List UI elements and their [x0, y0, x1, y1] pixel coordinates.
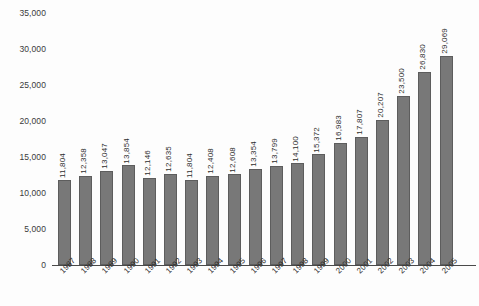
bar-value-label: 20,207	[376, 92, 389, 118]
bar-value-label: 13,854	[122, 138, 135, 164]
bar	[440, 56, 453, 265]
bar	[312, 154, 325, 265]
bar-value-label: 26,830	[418, 44, 431, 70]
bar-chart: 05,00010,00015,00020,00025,00030,00035,0…	[0, 0, 479, 306]
bar	[334, 143, 347, 265]
bar	[58, 180, 71, 265]
bar-value-label: 14,100	[291, 136, 304, 162]
bars-layer: 11,804198712,358198813,047198913,8541990…	[52, 0, 476, 306]
y-axis-tick-label: 5,000	[24, 224, 46, 234]
y-axis-tick-label: 20,000	[19, 116, 46, 126]
bar-value-label: 23,500	[397, 68, 410, 94]
bar	[164, 174, 177, 265]
bar	[143, 178, 156, 265]
bar	[291, 163, 304, 265]
bar-value-label: 13,047	[100, 143, 113, 169]
y-axis-tick-label: 30,000	[19, 44, 46, 54]
bar	[79, 176, 92, 265]
bar-value-label: 13,354	[249, 141, 262, 167]
bar-value-label: 13,799	[270, 138, 283, 164]
bar-value-label: 12,408	[206, 148, 219, 174]
bar	[249, 169, 262, 265]
y-axis-tick-label: 35,000	[19, 8, 46, 18]
bar-value-label: 11,804	[58, 153, 71, 178]
bar	[122, 165, 135, 265]
bar-value-label: 12,608	[228, 147, 241, 173]
bar-value-label: 12,358	[79, 148, 92, 174]
bar-value-label: 12,635	[164, 146, 177, 172]
bar	[355, 137, 368, 265]
bar	[376, 120, 389, 265]
plot-area: 11,804198712,358198813,047198913,8541990…	[52, 0, 479, 306]
y-axis: 05,00010,00015,00020,00025,00030,00035,0…	[0, 0, 52, 306]
bar	[270, 166, 283, 265]
bar	[397, 96, 410, 265]
bar	[228, 174, 241, 265]
bar-value-label: 16,983	[334, 115, 347, 141]
bar-value-label: 15,372	[312, 127, 325, 153]
bar	[185, 180, 198, 265]
bar-value-label: 12,146	[143, 150, 156, 176]
bar	[100, 171, 113, 265]
bar	[206, 176, 219, 265]
y-axis-tick-label: 15,000	[19, 152, 46, 162]
y-axis-tick-label: 0	[41, 260, 46, 270]
bar-value-label: 11,804	[185, 153, 198, 178]
bar-value-label: 29,069	[440, 28, 453, 54]
bar	[418, 72, 431, 265]
y-axis-tick-label: 10,000	[19, 188, 46, 198]
bar-value-label: 17,807	[355, 109, 368, 135]
y-axis-tick-label: 25,000	[19, 80, 46, 90]
